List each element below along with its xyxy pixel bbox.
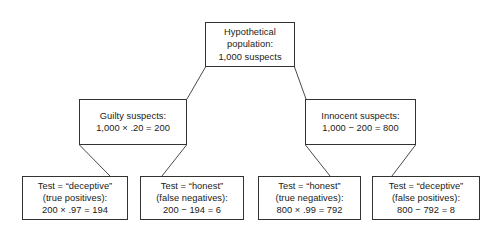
- edge-innocent-to-true-negatives: [306, 145, 331, 176]
- edge-root-to-innocent: [295, 67, 307, 99]
- node-text-line: population:: [227, 38, 273, 50]
- node-text-line: 800 × .99 = 792: [277, 204, 343, 216]
- node-hypothetical-population: Hypothetical population: 1,000 suspects: [205, 22, 295, 67]
- node-text-line: 200 × .97 = 194: [42, 204, 108, 216]
- node-text-line: 200 − 194 = 6: [163, 204, 221, 216]
- edge-guilty-to-false-negatives: [162, 145, 187, 176]
- node-text-line: 800 − 792 = 8: [397, 204, 455, 216]
- node-text-line: Test = “deceptive”: [38, 180, 113, 192]
- tree-diagram: Hypothetical population: 1,000 suspects …: [0, 0, 494, 241]
- node-text-line: Guilty suspects:: [100, 110, 166, 122]
- node-text-line: 1,000 suspects: [218, 51, 281, 63]
- node-true-negatives: Test = “honest” (true negatives): 800 × …: [258, 176, 361, 220]
- node-text-line: 1,000 − 200 = 800: [322, 122, 398, 134]
- node-text-line: Innocent suspects:: [321, 110, 399, 122]
- node-text-line: Test = “honest”: [278, 180, 341, 192]
- node-text-line: (true negatives):: [275, 192, 343, 204]
- node-guilty-suspects: Guilty suspects: 1,000 × .20 = 200: [79, 99, 187, 145]
- node-text-line: (false negatives):: [156, 192, 228, 204]
- node-text-line: (false positives):: [392, 192, 460, 204]
- node-text-line: Hypothetical: [224, 26, 276, 38]
- node-true-positives: Test = “deceptive” (true positives): 200…: [22, 176, 128, 220]
- node-text-line: (true positives):: [43, 192, 107, 204]
- node-false-positives: Test = “deceptive” (false positives): 80…: [372, 176, 480, 220]
- edge-root-to-guilty: [187, 67, 206, 99]
- edge-guilty-to-true-positives: [80, 145, 111, 176]
- node-false-negatives: Test = “honest” (false negatives): 200 −…: [140, 176, 244, 220]
- node-innocent-suspects: Innocent suspects: 1,000 − 200 = 800: [305, 99, 416, 145]
- node-text-line: 1,000 × .20 = 200: [96, 122, 170, 134]
- node-text-line: Test = “deceptive”: [389, 180, 464, 192]
- edge-innocent-to-false-positives: [392, 145, 416, 176]
- node-text-line: Test = “honest”: [161, 180, 224, 192]
